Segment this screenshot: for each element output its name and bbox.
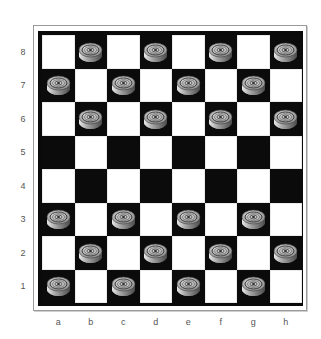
square-b5[interactable] [75,136,108,170]
square-a6[interactable] [42,102,75,136]
checker-piece-icon[interactable] [240,274,267,298]
square-h5[interactable] [270,136,303,170]
square-h6[interactable] [270,102,303,136]
file-label-e: e [182,317,194,327]
square-d8[interactable] [140,35,173,69]
square-g7[interactable] [237,69,270,103]
square-c2[interactable] [107,236,140,270]
square-e8[interactable] [172,35,205,69]
checker-piece-icon[interactable] [77,241,104,265]
checker-piece-icon[interactable] [142,241,169,265]
square-a3[interactable] [42,203,75,237]
square-b6[interactable] [75,102,108,136]
square-h8[interactable] [270,35,303,69]
checker-piece-icon[interactable] [175,274,202,298]
square-g3[interactable] [237,203,270,237]
square-d7[interactable] [140,69,173,103]
square-c1[interactable] [107,270,140,304]
square-e5[interactable] [172,136,205,170]
square-e1[interactable] [172,270,205,304]
rank-label-3: 3 [17,214,29,224]
square-b1[interactable] [75,270,108,304]
checker-piece-icon[interactable] [207,40,234,64]
checker-piece-icon[interactable] [110,274,137,298]
checker-piece-icon[interactable] [110,73,137,97]
square-e3[interactable] [172,203,205,237]
square-a4[interactable] [42,169,75,203]
square-e6[interactable] [172,102,205,136]
square-c8[interactable] [107,35,140,69]
square-c4[interactable] [107,169,140,203]
checker-piece-icon[interactable] [77,107,104,131]
square-b2[interactable] [75,236,108,270]
square-b4[interactable] [75,169,108,203]
file-label-c: c [117,317,129,327]
rank-label-5: 5 [17,147,29,157]
square-h2[interactable] [270,236,303,270]
square-a7[interactable] [42,69,75,103]
square-c7[interactable] [107,69,140,103]
checker-piece-icon[interactable] [142,107,169,131]
file-label-b: b [85,317,97,327]
square-h3[interactable] [270,203,303,237]
square-c3[interactable] [107,203,140,237]
square-d5[interactable] [140,136,173,170]
file-label-f: f [215,317,227,327]
square-c5[interactable] [107,136,140,170]
square-f1[interactable] [205,270,238,304]
checker-piece-icon[interactable] [110,207,137,231]
square-a2[interactable] [42,236,75,270]
file-label-a: a [52,317,64,327]
square-d2[interactable] [140,236,173,270]
square-e2[interactable] [172,236,205,270]
square-b8[interactable] [75,35,108,69]
checker-piece-icon[interactable] [207,241,234,265]
square-g5[interactable] [237,136,270,170]
square-g2[interactable] [237,236,270,270]
square-e4[interactable] [172,169,205,203]
square-d6[interactable] [140,102,173,136]
square-h7[interactable] [270,69,303,103]
square-f8[interactable] [205,35,238,69]
square-b7[interactable] [75,69,108,103]
checker-piece-icon[interactable] [240,73,267,97]
square-a5[interactable] [42,136,75,170]
square-g6[interactable] [237,102,270,136]
checker-piece-icon[interactable] [45,73,72,97]
checker-piece-icon[interactable] [272,107,299,131]
square-g8[interactable] [237,35,270,69]
checker-piece-icon[interactable] [240,207,267,231]
checkers-board [42,35,302,303]
square-d1[interactable] [140,270,173,304]
square-e7[interactable] [172,69,205,103]
checker-piece-icon[interactable] [142,40,169,64]
checker-piece-icon[interactable] [272,40,299,64]
rank-label-8: 8 [17,47,29,57]
checker-piece-icon[interactable] [175,73,202,97]
square-f6[interactable] [205,102,238,136]
square-f3[interactable] [205,203,238,237]
square-a8[interactable] [42,35,75,69]
checker-piece-icon[interactable] [175,207,202,231]
square-f7[interactable] [205,69,238,103]
checker-piece-icon[interactable] [207,107,234,131]
square-b3[interactable] [75,203,108,237]
file-label-h: h [280,317,292,327]
rank-label-7: 7 [17,80,29,90]
checker-piece-icon[interactable] [272,241,299,265]
square-d4[interactable] [140,169,173,203]
square-a1[interactable] [42,270,75,304]
checker-piece-icon[interactable] [45,274,72,298]
square-h4[interactable] [270,169,303,203]
checker-piece-icon[interactable] [45,207,72,231]
square-d3[interactable] [140,203,173,237]
square-h1[interactable] [270,270,303,304]
checker-piece-icon[interactable] [77,40,104,64]
square-g4[interactable] [237,169,270,203]
square-g1[interactable] [237,270,270,304]
rank-label-4: 4 [17,181,29,191]
square-f2[interactable] [205,236,238,270]
square-f4[interactable] [205,169,238,203]
square-f5[interactable] [205,136,238,170]
square-c6[interactable] [107,102,140,136]
